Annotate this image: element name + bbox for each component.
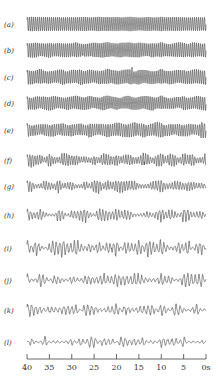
trace-label: (l)	[4, 339, 12, 347]
trace-g	[27, 180, 206, 193]
x-tick-label: 35	[44, 363, 54, 372]
traces-group: (a)(b)(c)(d)(e)(f)(g)(h)(i)(j)(k)(l)	[4, 17, 206, 348]
trace-j	[27, 273, 206, 287]
trace-f	[27, 153, 206, 168]
trace-d	[27, 96, 206, 111]
trace-label: (f)	[4, 157, 12, 165]
trace-label: (e)	[4, 127, 14, 135]
trace-label: (h)	[4, 212, 14, 220]
trace-h	[27, 209, 206, 223]
x-tick-label: 20	[111, 363, 121, 372]
x-tick-label: 0s	[201, 363, 210, 372]
x-tick-label: 40	[22, 363, 32, 372]
x-tick-label: 25	[89, 363, 99, 372]
x-tick-label: 10	[156, 363, 166, 372]
trace-label: (k)	[4, 307, 14, 315]
trace-label: (a)	[4, 21, 14, 29]
trace-label: (d)	[4, 100, 14, 108]
trace-a	[27, 17, 206, 31]
trace-b	[27, 42, 206, 57]
trace-l	[27, 336, 206, 348]
trace-label: (c)	[4, 74, 14, 82]
trace-figure: (a)(b)(c)(d)(e)(f)(g)(h)(i)(j)(k)(l) 403…	[0, 0, 222, 384]
trace-label: (g)	[4, 183, 14, 191]
trace-label: (b)	[4, 47, 14, 55]
x-tick-label: 30	[67, 363, 77, 372]
x-tick-label: 15	[134, 363, 144, 372]
trace-i	[27, 239, 206, 257]
time-axis: 4035302520151050s	[22, 354, 211, 372]
trace-c	[27, 67, 206, 85]
trace-e	[27, 122, 206, 138]
trace-label: (j)	[4, 277, 12, 285]
trace-k	[27, 304, 206, 317]
x-tick-label: 5	[181, 363, 186, 372]
trace-label: (i)	[4, 245, 12, 253]
